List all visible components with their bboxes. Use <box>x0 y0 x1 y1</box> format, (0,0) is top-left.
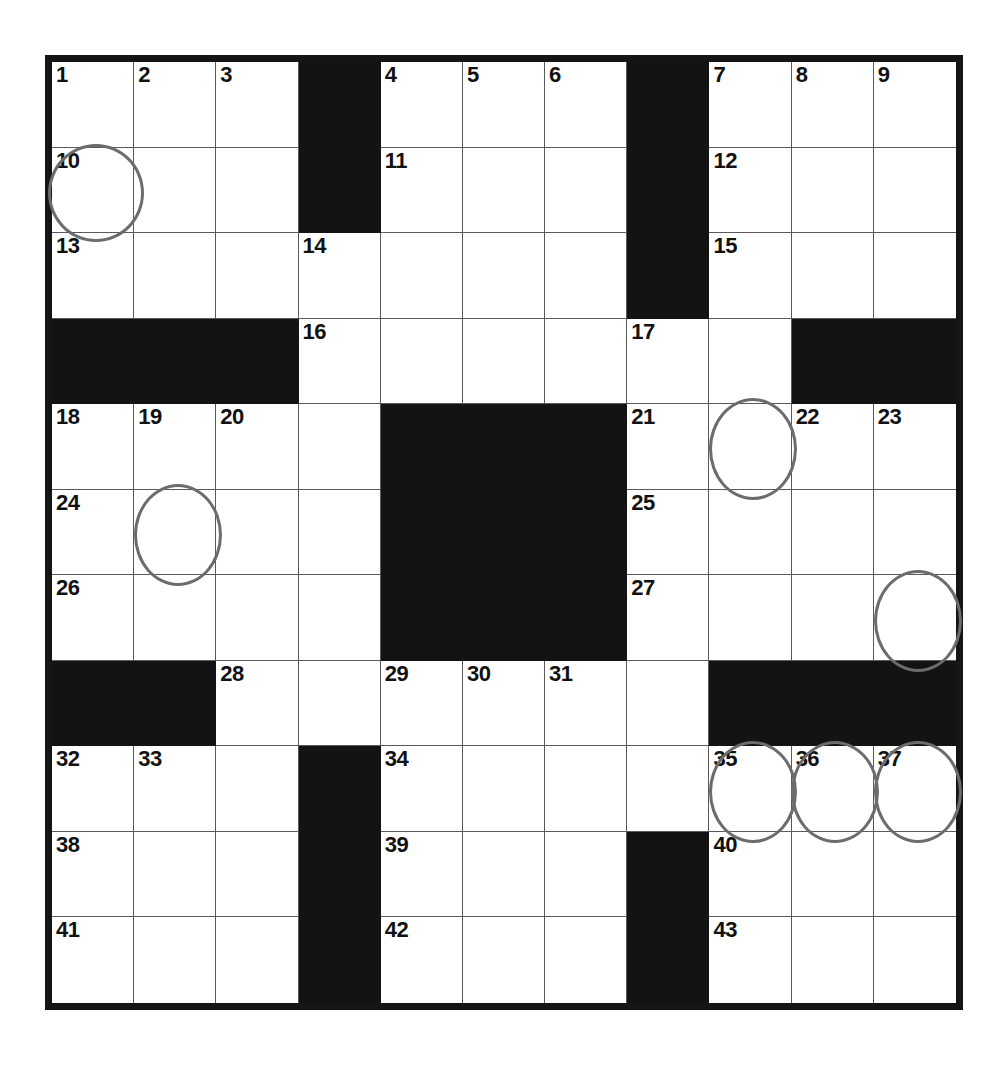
grid-cell[interactable] <box>134 490 216 576</box>
grid-cell[interactable]: 4 <box>381 62 463 148</box>
grid-cell[interactable]: 30 <box>463 661 545 747</box>
grid-cell[interactable]: 33 <box>134 746 216 832</box>
grid-cell[interactable] <box>381 233 463 319</box>
grid-cell[interactable]: 41 <box>52 917 134 1003</box>
grid-cell[interactable]: 24 <box>52 490 134 576</box>
grid-cell[interactable]: 17 <box>627 319 709 405</box>
grid-cell[interactable]: 26 <box>52 575 134 661</box>
grid-cell[interactable] <box>299 404 381 490</box>
grid-block-cell <box>381 575 463 661</box>
crossword-frame: 1234567891011121314151617181920212223242… <box>45 55 963 1010</box>
grid-cell[interactable] <box>216 490 298 576</box>
grid-cell[interactable] <box>792 490 874 576</box>
grid-cell[interactable] <box>216 233 298 319</box>
grid-cell[interactable]: 6 <box>545 62 627 148</box>
grid-cell[interactable]: 31 <box>545 661 627 747</box>
grid-cell[interactable]: 18 <box>52 404 134 490</box>
grid-block-cell <box>299 62 381 148</box>
grid-cell[interactable] <box>874 917 956 1003</box>
grid-cell[interactable]: 14 <box>299 233 381 319</box>
grid-cell[interactable]: 1 <box>52 62 134 148</box>
grid-cell[interactable]: 20 <box>216 404 298 490</box>
grid-cell[interactable]: 9 <box>874 62 956 148</box>
grid-cell[interactable]: 7 <box>709 62 791 148</box>
grid-cell[interactable]: 10 <box>52 148 134 234</box>
grid-cell[interactable]: 25 <box>627 490 709 576</box>
grid-cell[interactable] <box>709 490 791 576</box>
grid-cell[interactable] <box>792 148 874 234</box>
grid-cell[interactable]: 29 <box>381 661 463 747</box>
grid-cell[interactable] <box>545 917 627 1003</box>
clue-number: 9 <box>878 63 890 86</box>
grid-cell[interactable]: 40 <box>709 832 791 918</box>
grid-cell[interactable]: 34 <box>381 746 463 832</box>
grid-cell[interactable] <box>134 233 216 319</box>
grid-cell[interactable]: 32 <box>52 746 134 832</box>
grid-cell[interactable]: 27 <box>627 575 709 661</box>
grid-cell[interactable] <box>463 917 545 1003</box>
grid-cell[interactable]: 28 <box>216 661 298 747</box>
grid-cell[interactable]: 13 <box>52 233 134 319</box>
grid-cell[interactable]: 39 <box>381 832 463 918</box>
grid-cell[interactable]: 2 <box>134 62 216 148</box>
grid-cell[interactable]: 21 <box>627 404 709 490</box>
grid-cell[interactable] <box>216 148 298 234</box>
grid-cell[interactable]: 38 <box>52 832 134 918</box>
grid-cell[interactable] <box>463 746 545 832</box>
grid-cell[interactable]: 15 <box>709 233 791 319</box>
grid-cell[interactable] <box>627 746 709 832</box>
grid-cell[interactable]: 23 <box>874 404 956 490</box>
grid-cell[interactable] <box>709 319 791 405</box>
grid-cell[interactable] <box>299 490 381 576</box>
grid-cell[interactable] <box>874 832 956 918</box>
grid-cell[interactable] <box>545 832 627 918</box>
grid-cell[interactable] <box>216 917 298 1003</box>
grid-cell[interactable] <box>299 661 381 747</box>
grid-cell[interactable] <box>216 575 298 661</box>
grid-cell[interactable] <box>792 917 874 1003</box>
grid-cell[interactable] <box>874 490 956 576</box>
grid-cell[interactable]: 11 <box>381 148 463 234</box>
grid-cell[interactable] <box>874 575 956 661</box>
grid-cell[interactable] <box>463 832 545 918</box>
grid-cell[interactable] <box>134 917 216 1003</box>
grid-cell[interactable] <box>134 575 216 661</box>
grid-cell[interactable]: 16 <box>299 319 381 405</box>
grid-cell[interactable] <box>874 148 956 234</box>
grid-cell[interactable]: 12 <box>709 148 791 234</box>
grid-cell[interactable] <box>709 404 791 490</box>
grid-cell[interactable] <box>463 319 545 405</box>
grid-cell[interactable] <box>792 575 874 661</box>
grid-cell[interactable] <box>463 233 545 319</box>
grid-cell[interactable]: 37 <box>874 746 956 832</box>
grid-cell[interactable]: 19 <box>134 404 216 490</box>
grid-cell[interactable]: 8 <box>792 62 874 148</box>
grid-cell[interactable] <box>627 661 709 747</box>
grid-cell[interactable]: 35 <box>709 746 791 832</box>
grid-cell[interactable]: 5 <box>463 62 545 148</box>
grid-cell[interactable] <box>874 233 956 319</box>
grid-cell[interactable] <box>216 832 298 918</box>
grid-cell[interactable] <box>545 746 627 832</box>
grid-cell[interactable] <box>381 319 463 405</box>
grid-block-cell <box>463 490 545 576</box>
grid-cell[interactable] <box>134 832 216 918</box>
grid-cell[interactable] <box>792 832 874 918</box>
grid-cell[interactable] <box>545 319 627 405</box>
grid-cell[interactable] <box>299 575 381 661</box>
grid-cell[interactable] <box>463 148 545 234</box>
grid-cell[interactable] <box>709 575 791 661</box>
grid-cell[interactable] <box>545 233 627 319</box>
grid-cell[interactable]: 43 <box>709 917 791 1003</box>
grid-cell[interactable]: 36 <box>792 746 874 832</box>
grid-cell[interactable] <box>545 148 627 234</box>
grid-cell[interactable]: 42 <box>381 917 463 1003</box>
grid-cell[interactable] <box>134 148 216 234</box>
grid-block-cell <box>381 490 463 576</box>
circle-annotation-icon <box>709 398 797 500</box>
grid-cell[interactable] <box>216 746 298 832</box>
grid-cell[interactable]: 22 <box>792 404 874 490</box>
grid-cell[interactable] <box>792 233 874 319</box>
clue-number: 25 <box>631 491 654 514</box>
grid-cell[interactable]: 3 <box>216 62 298 148</box>
